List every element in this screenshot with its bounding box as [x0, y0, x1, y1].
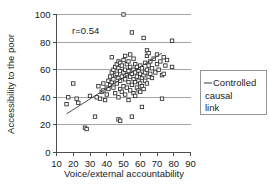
data-point [103, 98, 106, 101]
x-tick-label-50: 50 [118, 158, 129, 169]
y-tick-label-0: 0 [45, 147, 50, 158]
data-point [127, 80, 130, 83]
x-tick-label-90: 90 [185, 158, 196, 169]
y-tick-label-100: 100 [35, 9, 51, 20]
x-tick-label-40: 40 [101, 158, 112, 169]
data-point [132, 57, 135, 60]
data-point [123, 78, 126, 81]
data-point [130, 115, 133, 118]
data-point [95, 96, 98, 99]
data-point [147, 51, 150, 54]
data-point [97, 85, 100, 88]
y-tick-label-60: 60 [40, 64, 51, 75]
data-point [115, 72, 118, 75]
data-point [98, 97, 101, 100]
data-point [150, 67, 153, 70]
data-point [72, 82, 75, 85]
data-point [150, 76, 153, 79]
x-tick-label-60: 60 [135, 158, 146, 169]
data-point [122, 85, 125, 88]
data-point [154, 71, 157, 74]
scatter-plot-figure: 020406080100 102030405060708090 r=0.54 V… [0, 0, 271, 191]
data-point [129, 53, 132, 56]
data-point [123, 93, 126, 96]
data-point [162, 72, 165, 75]
data-point [164, 64, 167, 67]
data-point [112, 78, 115, 81]
data-point [145, 82, 148, 85]
data-point [118, 69, 121, 72]
data-point [134, 94, 137, 97]
legend[interactable]: Controlled causal link [201, 71, 267, 115]
x-axis-title: Voice/external accountability [64, 168, 184, 179]
data-point [120, 64, 123, 67]
data-point [129, 89, 132, 92]
data-point [85, 127, 88, 130]
data-point [157, 68, 160, 71]
data-point [88, 94, 91, 97]
data-point [160, 97, 163, 100]
data-point [120, 90, 123, 93]
x-tick-label-20: 20 [68, 158, 79, 169]
x-tick-label-70: 70 [152, 158, 163, 169]
data-point [142, 87, 145, 90]
data-point [102, 82, 105, 85]
plot-canvas: 020406080100 102030405060708090 r=0.54 V… [0, 0, 271, 191]
data-point [117, 96, 120, 99]
data-point [127, 98, 130, 101]
data-point [127, 60, 130, 63]
data-point [139, 72, 142, 75]
data-point [159, 60, 162, 63]
data-point [125, 86, 128, 89]
data-point [142, 36, 145, 39]
data-point [107, 79, 110, 82]
data-point [145, 68, 148, 71]
y-axis-title: Accessibility to the poor [5, 34, 16, 134]
data-point [112, 86, 115, 89]
data-point [105, 93, 108, 96]
data-point [77, 101, 80, 104]
legend-label-line2: causal [205, 90, 232, 101]
data-point [147, 64, 150, 67]
data-point [155, 62, 158, 65]
y-axis-ticks-group: 020406080100 [35, 9, 57, 158]
correlation-annotation: r=0.54 [72, 25, 99, 36]
data-point [93, 115, 96, 118]
data-point [67, 96, 70, 99]
y-tick-label-40: 40 [40, 92, 51, 103]
data-point [165, 58, 168, 61]
data-point [122, 13, 125, 16]
data-point [130, 31, 133, 34]
x-tick-label-10: 10 [51, 158, 62, 169]
data-point [135, 75, 138, 78]
data-point [108, 75, 111, 78]
y-tick-label-20: 20 [40, 119, 51, 130]
y-tick-label-80: 80 [40, 37, 51, 48]
data-point [65, 103, 68, 106]
data-point [170, 39, 173, 42]
data-point [140, 105, 143, 108]
data-point [129, 65, 132, 68]
x-axis-ticks-group: 102030405060708090 [51, 153, 196, 169]
data-point [123, 54, 126, 57]
data-point [134, 80, 137, 83]
legend-label-line3: link [205, 102, 220, 113]
x-tick-label-30: 30 [85, 158, 96, 169]
data-point [170, 65, 173, 68]
data-point [130, 83, 133, 86]
data-point [110, 56, 113, 59]
x-tick-label-80: 80 [168, 158, 179, 169]
data-point [127, 69, 130, 72]
data-point [123, 68, 126, 71]
data-point [162, 56, 165, 59]
data-point [122, 58, 125, 61]
data-point [118, 119, 121, 122]
data-point [75, 97, 78, 100]
data-point [139, 90, 142, 93]
legend-label-line1: Controlled [213, 77, 256, 88]
data-point [113, 91, 116, 94]
data-point [149, 72, 152, 75]
